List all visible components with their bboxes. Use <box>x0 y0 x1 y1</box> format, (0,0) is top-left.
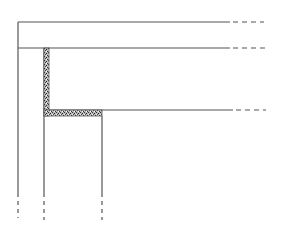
horizontal-filler-strip <box>44 110 102 116</box>
construction-detail-diagram <box>0 0 283 231</box>
vertical-filler-strip <box>44 48 49 116</box>
